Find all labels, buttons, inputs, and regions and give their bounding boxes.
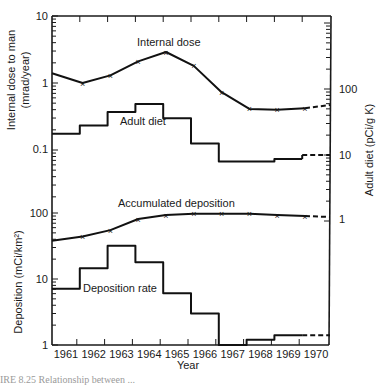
x-marker: × [219, 209, 224, 219]
x-marker: × [302, 104, 307, 114]
year-label: 1969 [276, 348, 300, 360]
tick-label: 10 [36, 273, 48, 285]
x-marker: × [219, 88, 224, 98]
series-label-internal-dose: Internal dose [137, 36, 201, 48]
x-marker: × [275, 211, 280, 221]
series-label-deposition-rate: Deposition rate [83, 282, 157, 294]
series-label-adult-diet: Adult diet [120, 115, 166, 127]
y-axis-title-right: Adult diet (pCi/g K) [363, 104, 375, 196]
x-marker: × [191, 209, 196, 219]
internal-dose-line-projected [305, 105, 330, 108]
x-marker: × [163, 211, 168, 221]
y-axis-title-upper-unit: (mrad/year) [19, 52, 31, 109]
deposition-rate-steps [52, 246, 302, 345]
right-axis-labels: 100 10 1 [339, 83, 357, 225]
left-axis-labels: 10 1 0.1 100 10 1 [30, 10, 48, 351]
tick-label: 100 [339, 83, 357, 95]
x-marker: × [136, 57, 141, 67]
y-axis-title-lower: Deposition (mCi/km²) [12, 230, 24, 333]
x-marker: × [191, 61, 196, 71]
year-label: 1963 [109, 348, 133, 360]
tick-label: 1 [339, 213, 345, 225]
year-label: 1961 [54, 348, 78, 360]
year-label: 1962 [81, 348, 105, 360]
accumulated-deposition-line [52, 214, 305, 241]
x-marker: × [108, 71, 113, 81]
x-axis-title: Year [177, 359, 200, 371]
x-marker: × [247, 209, 252, 219]
year-label: 1968 [248, 348, 272, 360]
series-label-accumulated-deposition: Accumulated deposition [118, 197, 235, 209]
x-marker: × [80, 232, 85, 242]
tick-label: 1 [42, 339, 48, 351]
x-marker: × [163, 48, 168, 58]
x-marker: × [136, 215, 141, 225]
year-label: 1964 [137, 348, 161, 360]
accumulated-deposition-line-projected [305, 216, 330, 217]
y-axis-title-upper: Internal dose to man [5, 30, 17, 130]
adult-diet-steps [52, 104, 302, 161]
year-label: 1967 [220, 348, 244, 360]
x-marker: × [275, 105, 280, 115]
year-label: 1970 [304, 348, 328, 360]
x-marker: × [80, 79, 85, 89]
internal-dose-line [52, 52, 305, 110]
x-marker: × [302, 212, 307, 222]
tick-label: 10 [339, 149, 351, 161]
x-marker: × [247, 104, 252, 114]
x-marker: × [108, 226, 113, 236]
chart: ×××××××××××××××××× 10 1 0.1 100 10 1 100… [0, 0, 388, 386]
tick-label: 0.1 [33, 143, 48, 155]
tick-label: 100 [30, 207, 48, 219]
tick-label: 1 [42, 77, 48, 89]
tick-label: 10 [36, 10, 48, 22]
figure-caption: IRE 8.25 Relationship between ... [0, 374, 388, 386]
